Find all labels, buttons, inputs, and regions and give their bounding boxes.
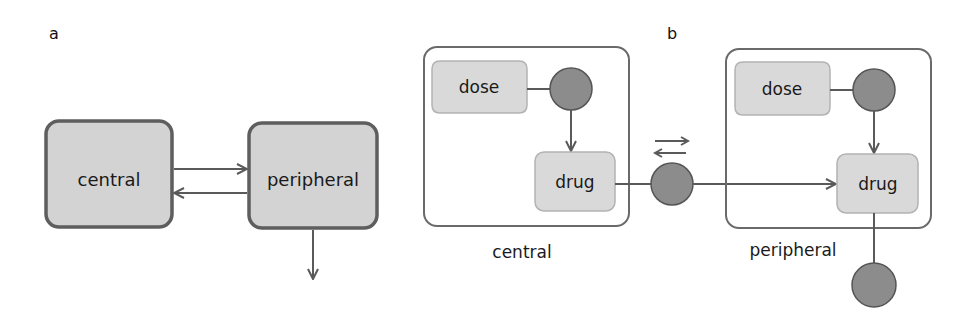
panel-b-central-compartment: dose drug central — [424, 47, 629, 262]
central-box-label: central — [78, 169, 141, 190]
panel-a-label: a — [49, 24, 59, 43]
panel-b-label: b — [667, 24, 677, 43]
panel-a: a central peripheral — [46, 24, 377, 279]
peripheral-dose-label: dose — [762, 79, 803, 99]
central-compartment-label: central — [492, 242, 551, 262]
pk-model-diagram: a central peripheral b dose — [0, 0, 975, 325]
peripheral-drug-label: drug — [858, 174, 897, 194]
central-drug-label: drug — [555, 172, 594, 192]
central-dose-label: dose — [459, 77, 500, 97]
elimination-process-node — [852, 263, 896, 307]
panel-a-central-compartment: central — [46, 121, 172, 227]
panel-a-peripheral-compartment: peripheral — [249, 123, 377, 228]
transfer-process-node — [651, 163, 693, 205]
peripheral-compartment-label: peripheral — [749, 240, 836, 260]
peripheral-dosing-process-node — [853, 69, 895, 111]
central-dosing-process-node — [550, 68, 592, 110]
panel-b-peripheral-compartment: dose drug peripheral — [726, 49, 931, 260]
panel-b: b dose drug central — [424, 24, 931, 307]
peripheral-box-label: peripheral — [267, 169, 359, 190]
reversible-arrows-icon — [655, 137, 688, 157]
